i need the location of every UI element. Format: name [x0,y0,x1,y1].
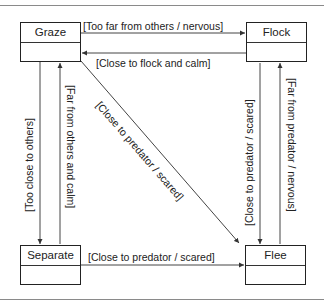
state-flock-label: Flock [247,23,306,43]
transition-label-graze-separate: [Too close to others] [23,118,35,212]
transition-label-flock-graze: [Close to flock and calm] [96,57,210,69]
state-graze-label: Graze [21,23,80,43]
state-separate-label: Separate [21,246,80,266]
state-graze: Graze [20,22,81,62]
transition-label-separate-graze: [Far from others and calm] [65,85,77,208]
transition-label-separate-flee: [Close to predator / scared] [88,251,215,263]
state-flock: Flock [246,22,307,62]
state-flee-label: Flee [246,246,305,266]
transition-label-graze-flock: [Too far from others / nervous] [83,20,223,32]
state-separate: Separate [20,245,81,285]
transition-label-flee-flock: [Far from predator / nervous] [286,78,298,212]
state-flee: Flee [245,245,306,285]
transition-label-flock-flee: [Close to predator / scared] [243,99,255,226]
